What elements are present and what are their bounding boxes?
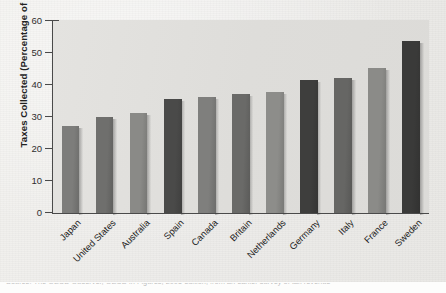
bar-drop-shadow	[113, 119, 117, 216]
bar-drop-shadow	[147, 115, 151, 215]
bar-drop-shadow	[420, 43, 424, 215]
x-tick-label-text: Sweden	[393, 218, 424, 249]
bar	[198, 97, 216, 213]
bar-drop-shadow	[249, 96, 253, 215]
bar-fill	[368, 68, 386, 213]
caption-text: Source: The OECD Observer, OECD in Figur…	[6, 283, 442, 286]
y-tick-label: 50	[18, 48, 42, 58]
bar-drop-shadow	[317, 82, 321, 215]
x-tick-label-text: Canada	[189, 218, 219, 248]
x-tick-label-text: France	[362, 218, 390, 246]
bar	[368, 68, 386, 213]
bar	[266, 92, 284, 213]
x-tick-label-text: Britain	[228, 218, 254, 244]
bar-fill	[62, 126, 80, 213]
bar	[62, 126, 80, 213]
bar-drop-shadow	[215, 99, 219, 215]
x-tick-label-text: Italy	[337, 218, 356, 237]
x-tick-label-text: Japan	[58, 218, 83, 243]
bar-drop-shadow	[352, 80, 356, 215]
bar-fill	[266, 92, 284, 213]
x-tick-label-text: Spain	[162, 218, 186, 242]
y-axis-tick	[45, 148, 53, 149]
y-tick-label: 40	[18, 80, 42, 90]
y-tick-label: 10	[18, 176, 42, 186]
y-tick-label: 60	[18, 16, 42, 26]
bar-drop-shadow	[386, 70, 390, 215]
x-tick-label-text: Germany	[288, 218, 322, 252]
bar-drop-shadow	[79, 128, 83, 215]
bar-fill	[198, 97, 216, 213]
y-axis-tick	[45, 180, 53, 181]
y-axis-tick	[45, 52, 53, 53]
x-axis-tick-labels: JapanUnited StatesAustraliaSpainCanadaBr…	[0, 213, 446, 283]
y-axis-tick	[45, 84, 53, 85]
bar	[402, 41, 420, 213]
bar-fill	[402, 41, 420, 213]
figure-caption-clipped: Source: The OECD Observer, OECD in Figur…	[0, 283, 446, 293]
y-tick-label: 30	[18, 112, 42, 122]
bar	[96, 117, 114, 214]
x-tick-label-text: Australia	[119, 218, 152, 251]
bar-series	[53, 20, 428, 213]
y-axis-tick	[45, 116, 53, 117]
bar-drop-shadow	[283, 94, 287, 215]
figure-chart: Taxes Collected (Percentage of GDP) 60 5…	[0, 0, 446, 293]
bar-fill	[96, 117, 114, 214]
y-tick-label: 20	[18, 144, 42, 154]
bar-drop-shadow	[181, 101, 185, 215]
y-axis-tick	[45, 20, 53, 21]
